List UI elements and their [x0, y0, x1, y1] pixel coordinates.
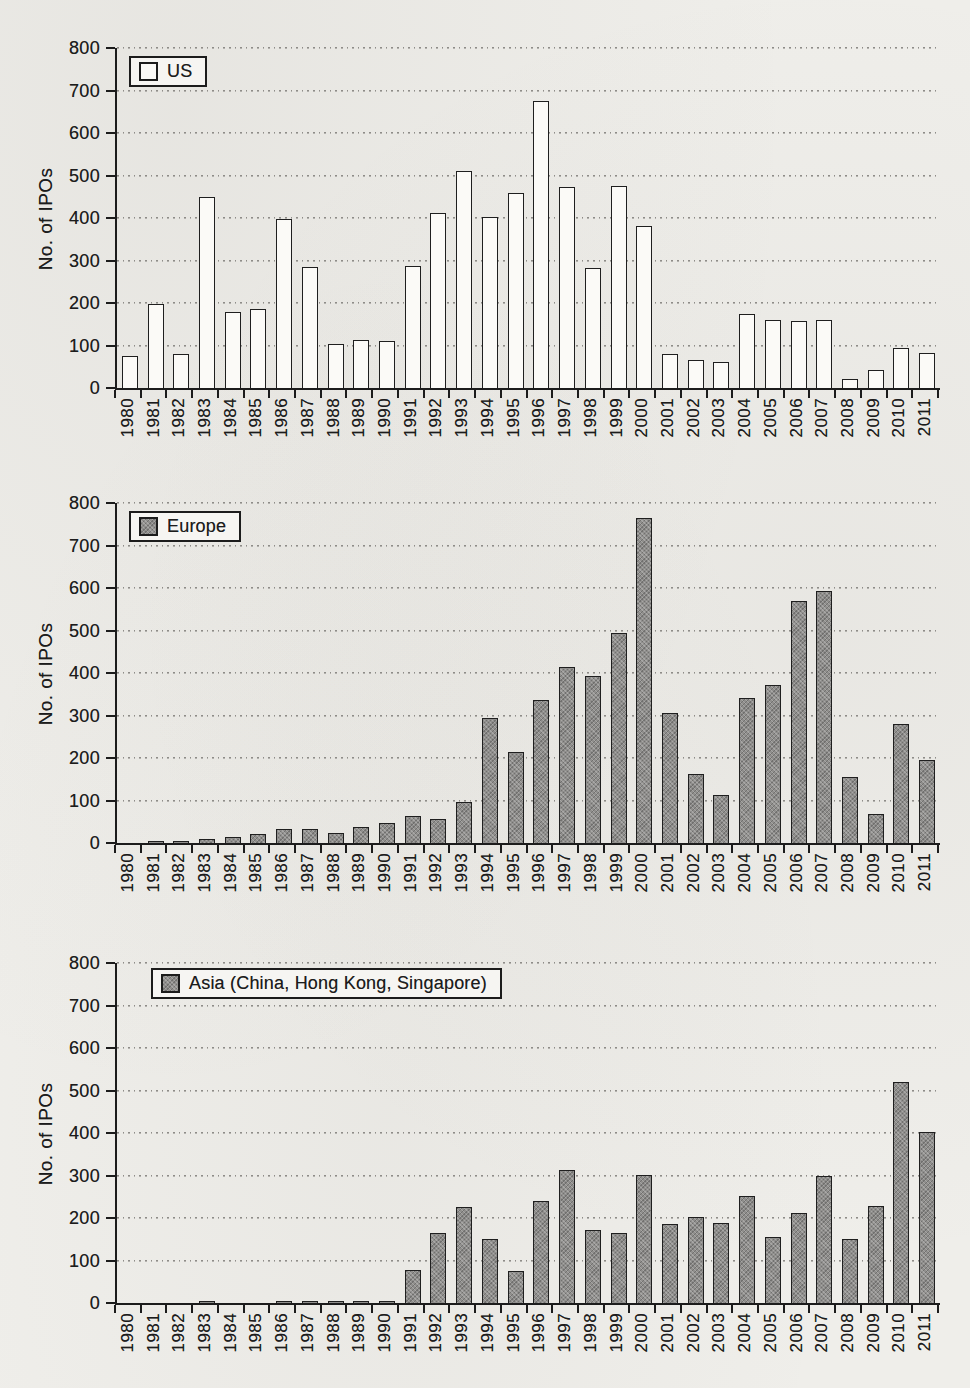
x-label-1992: 1992 — [427, 1313, 445, 1361]
x-tick — [731, 845, 733, 853]
x-tick — [886, 845, 888, 853]
bar-1998 — [585, 676, 601, 843]
bar-1998 — [585, 1230, 601, 1303]
x-label-1983: 1983 — [196, 398, 214, 446]
bar-1995 — [508, 752, 524, 843]
x-label-1998: 1998 — [582, 853, 600, 901]
x-label-1997: 1997 — [556, 853, 574, 901]
x-label-2006: 2006 — [788, 853, 806, 901]
bar-1996 — [533, 101, 549, 388]
x-label-1995: 1995 — [505, 1313, 523, 1361]
y-tick-700 — [106, 90, 115, 92]
scanned-book-page: No. of IPOs US 0100200300400500600700800… — [0, 0, 970, 1388]
x-label-2007: 2007 — [813, 1313, 831, 1361]
x-label-2001: 2001 — [659, 1313, 677, 1361]
bar-1983 — [199, 197, 215, 388]
x-tick — [783, 845, 785, 853]
x-label-1997: 1997 — [556, 1313, 574, 1361]
x-tick — [654, 845, 656, 853]
x-tick — [268, 1305, 270, 1313]
x-tick — [603, 845, 605, 853]
x-tick — [706, 845, 708, 853]
x-label-2002: 2002 — [685, 853, 703, 901]
x-tick — [526, 845, 528, 853]
bar-1999 — [611, 186, 627, 388]
asia-ipo-bar-chart: No. of IPOs Asia (China, Hong Kong, Sing… — [0, 915, 970, 1388]
x-tick — [731, 390, 733, 398]
bar-1985 — [250, 309, 266, 388]
gridline-500 — [117, 1090, 940, 1092]
x-tick — [114, 845, 116, 853]
y-tick-0 — [106, 1302, 115, 1304]
x-label-2011: 2011 — [916, 1313, 934, 1361]
x-label-1983: 1983 — [196, 853, 214, 901]
bar-1983 — [199, 1301, 215, 1303]
x-tick — [937, 1305, 939, 1313]
bar-2002 — [688, 360, 704, 388]
x-tick — [834, 390, 836, 398]
x-tick — [294, 1305, 296, 1313]
y-tick-500 — [106, 175, 115, 177]
x-tick — [834, 1305, 836, 1313]
x-label-1990: 1990 — [376, 1313, 394, 1361]
bar-1987 — [302, 1301, 318, 1303]
x-tick — [603, 1305, 605, 1313]
x-label-1982: 1982 — [170, 853, 188, 901]
x-tick — [448, 845, 450, 853]
bar-2002 — [688, 774, 704, 843]
x-label-1991: 1991 — [402, 853, 420, 901]
x-tick — [294, 845, 296, 853]
x-label-1993: 1993 — [453, 853, 471, 901]
x-tick — [911, 1305, 913, 1313]
y-tick-200 — [106, 757, 115, 759]
x-label-1987: 1987 — [299, 398, 317, 446]
x-label-1994: 1994 — [479, 398, 497, 446]
bar-1992 — [430, 1233, 446, 1303]
x-tick — [140, 1305, 142, 1313]
bar-1999 — [611, 633, 627, 843]
y-tick-label-500: 500 — [50, 621, 100, 641]
y-tick-500 — [106, 630, 115, 632]
bar-2008 — [842, 777, 858, 843]
bar-1988 — [328, 833, 344, 843]
x-label-1996: 1996 — [530, 853, 548, 901]
x-label-1980: 1980 — [119, 853, 137, 901]
x-tick — [808, 845, 810, 853]
x-tick — [757, 1305, 759, 1313]
bar-1990 — [379, 1301, 395, 1303]
y-tick-label-100: 100 — [50, 791, 100, 811]
x-tick — [500, 1305, 502, 1313]
bar-1994 — [482, 718, 498, 843]
legend-label: US — [167, 61, 192, 82]
bar-1984 — [225, 312, 241, 388]
x-label-2006: 2006 — [788, 398, 806, 446]
x-label-1985: 1985 — [247, 398, 265, 446]
bar-1991 — [405, 1270, 421, 1303]
bar-2010 — [893, 348, 909, 388]
legend-asia: Asia (China, Hong Kong, Singapore) — [151, 968, 502, 999]
bar-1992 — [430, 213, 446, 388]
y-tick-label-400: 400 — [50, 663, 100, 683]
x-label-1995: 1995 — [505, 398, 523, 446]
x-tick — [165, 390, 167, 398]
x-label-2005: 2005 — [762, 398, 780, 446]
y-tick-label-200: 200 — [50, 748, 100, 768]
bar-2000 — [636, 226, 652, 388]
bar-1996 — [533, 700, 549, 843]
x-tick — [423, 390, 425, 398]
x-tick — [860, 1305, 862, 1313]
x-tick — [423, 1305, 425, 1313]
x-tick — [500, 390, 502, 398]
y-tick-label-400: 400 — [50, 208, 100, 228]
y-tick-label-700: 700 — [50, 536, 100, 556]
x-tick — [603, 390, 605, 398]
bar-1986 — [276, 829, 292, 843]
x-label-2004: 2004 — [736, 853, 754, 901]
y-tick-label-100: 100 — [50, 1251, 100, 1271]
x-label-1999: 1999 — [608, 398, 626, 446]
y-tick-label-500: 500 — [50, 166, 100, 186]
x-label-1990: 1990 — [376, 853, 394, 901]
y-tick-600 — [106, 587, 115, 589]
bar-2003 — [713, 362, 729, 388]
x-tick — [551, 1305, 553, 1313]
